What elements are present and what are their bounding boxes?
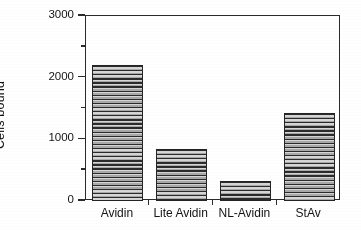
x-axis-category-label: StAv — [296, 206, 321, 220]
y-axis-major-tick — [78, 138, 85, 139]
bar — [284, 113, 335, 201]
y-axis-tick-label: 3000 — [14, 9, 74, 21]
y-axis-tick-label: 2000 — [14, 71, 74, 83]
y-axis-major-tick — [78, 199, 85, 200]
x-axis-category-label: Avidin — [101, 206, 133, 220]
x-axis-tick — [276, 200, 277, 205]
x-axis-tick — [148, 200, 149, 205]
y-axis-tick-label: 0 — [14, 194, 74, 206]
y-axis-major-tick — [78, 14, 85, 15]
x-axis-category-label: Lite Avidin — [153, 206, 208, 220]
bar — [220, 181, 271, 201]
y-axis-major-tick — [78, 76, 85, 77]
x-axis-tick — [212, 200, 213, 205]
bar-chart-figure: Cells bound 3000200010000 AvidinLite Avi… — [0, 0, 361, 230]
x-axis-category-label: NL-Avidin — [218, 206, 270, 220]
plot-area — [85, 15, 340, 200]
bar — [92, 65, 143, 201]
bar — [156, 149, 207, 201]
y-axis-tick-label: 1000 — [14, 133, 74, 145]
